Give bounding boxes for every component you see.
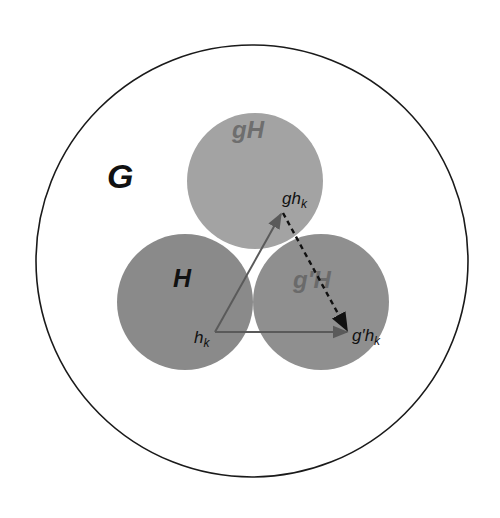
group-G-label: G	[107, 157, 133, 195]
coset-gprimeH-label: g′H	[292, 266, 331, 293]
coset-diagram: G gH H g′H hk ghk g′hk	[0, 0, 500, 518]
coset-gH-label: gH	[231, 116, 265, 143]
group-G-circle	[36, 45, 468, 477]
coset-H-label: H	[173, 264, 192, 292]
coset-gprimeH-circle	[253, 234, 389, 370]
